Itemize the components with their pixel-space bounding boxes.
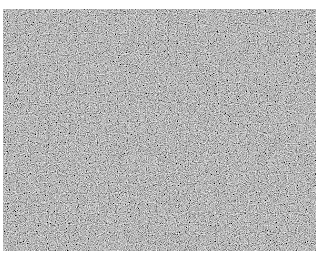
- noise-texture-image: [3, 9, 316, 251]
- noise-svg: [3, 9, 316, 251]
